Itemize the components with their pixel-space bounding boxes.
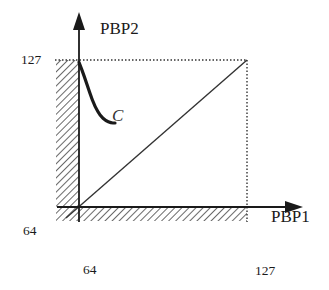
x-axis-label: PBP1 (271, 207, 310, 226)
y-axis-arrowhead (73, 12, 85, 30)
curve-c (79, 62, 115, 123)
y-max-tick-label: 127 (21, 52, 42, 67)
hatched-region-horizontal (79, 207, 247, 221)
y-min-tick-label: 64 (23, 223, 37, 238)
curve-c-label: C (112, 106, 124, 125)
hatched-region-vertical (56, 60, 79, 221)
y-axis-label: PBP2 (100, 19, 139, 38)
x-max-tick-label: 127 (255, 263, 276, 278)
diagram-canvas: PBP2 PBP1 127 64 64 127 C (0, 0, 329, 290)
diagonal-line (66, 60, 247, 218)
x-min-tick-label: 64 (83, 262, 97, 277)
